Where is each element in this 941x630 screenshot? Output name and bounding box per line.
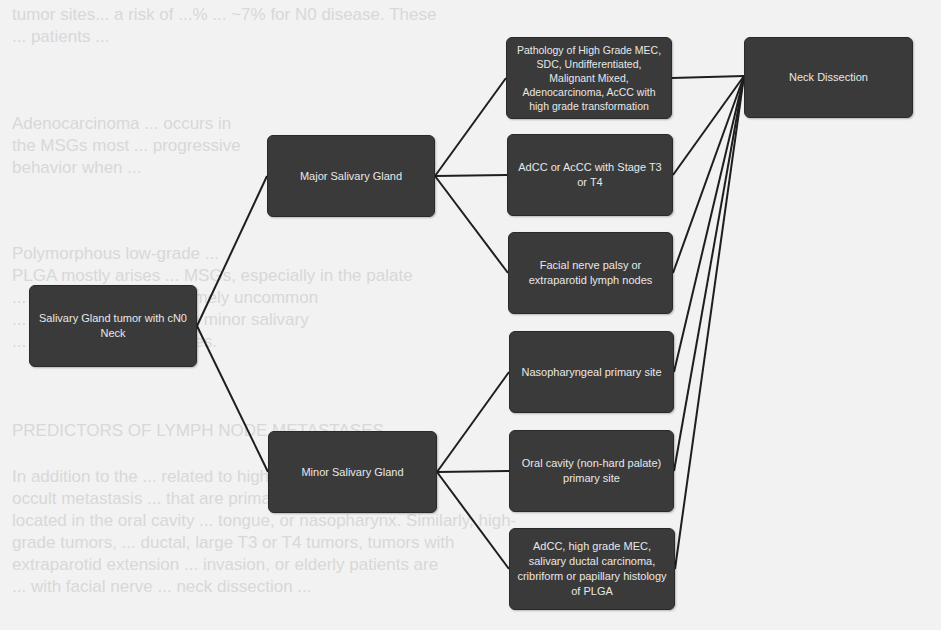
edge-major-facial <box>435 176 508 273</box>
criterion-nasopharyngeal: Nasopharyngeal primary site <box>509 331 674 413</box>
edge-minor-oral <box>437 471 509 472</box>
criterion-oral-cavity: Oral cavity (non-hard palate) primary si… <box>509 430 674 512</box>
edge-stage-neck <box>673 76 744 175</box>
edge-pathology-neck <box>672 76 744 78</box>
criterion-histology-plga: AdCC, high grade MEC, salivary ductal ca… <box>509 528 675 610</box>
criterion-stage-t3-t4: AdCC or AcCC with Stage T3 or T4 <box>507 134 673 216</box>
criterion-facial-nerve: Facial nerve palsy or extraparotid lymph… <box>508 232 673 314</box>
edge-root-minor <box>197 326 268 472</box>
edge-major-pathology <box>435 78 506 176</box>
edge-minor-naso <box>437 372 509 472</box>
edge-root-major <box>197 176 267 326</box>
edge-major-stage <box>435 175 507 176</box>
criterion-pathology-high-grade: Pathology of High Grade MEC, SDC, Undiff… <box>506 37 672 119</box>
branch-minor-salivary-gland: Minor Salivary Gland <box>268 431 437 513</box>
edge-oral-neck <box>674 76 744 471</box>
edge-minor-histology <box>437 472 509 569</box>
branch-major-salivary-gland: Major Salivary Gland <box>267 135 435 217</box>
outcome-neck-dissection: Neck Dissection <box>744 37 913 118</box>
root-node: Salivary Gland tumor with cN0 Neck <box>29 285 197 367</box>
edge-facial-neck <box>673 76 744 273</box>
